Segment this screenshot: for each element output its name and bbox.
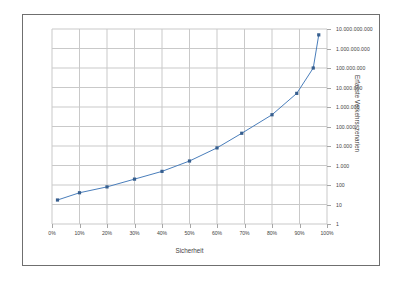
x-axis-tick	[272, 224, 273, 228]
y-axis-tick	[327, 185, 331, 186]
y-axis-tick	[327, 107, 331, 108]
y-axis-tick	[327, 68, 331, 69]
y-axis-tick-label: 10.000	[336, 143, 352, 149]
series-markers	[56, 33, 320, 201]
plot-area: 1101001.00010.000100.0001.000.00010.000.…	[52, 29, 327, 224]
x-axis-tick-label: 20%	[102, 230, 112, 236]
y-axis-tick-label: 10.000.000.000	[336, 26, 373, 32]
x-axis-tick	[245, 224, 246, 228]
data-point-marker	[270, 113, 273, 116]
y-axis-tick-label: 1.000	[336, 163, 349, 169]
x-axis-tick-label: 80%	[267, 230, 277, 236]
x-axis-tick	[190, 224, 191, 228]
x-axis-tick-label: 0%	[48, 230, 55, 236]
x-axis-title: Sicherheit	[52, 247, 327, 254]
y-axis-tick	[327, 146, 331, 147]
y-axis-tick-label: 10	[336, 202, 342, 208]
y-axis-tick-label: 100.000.000	[336, 65, 365, 71]
x-axis-tick	[107, 224, 108, 228]
y-axis-tick-label: 1	[336, 221, 339, 227]
chart-figure: 1101001.00010.000100.0001.000.00010.000.…	[22, 14, 380, 266]
y-axis-tick	[327, 166, 331, 167]
x-axis-tick-label: 10%	[74, 230, 84, 236]
y-axis-tick-label: 100	[336, 182, 345, 188]
x-axis-tick	[135, 224, 136, 228]
data-point-marker	[105, 185, 108, 188]
x-axis-tick-label: 40%	[157, 230, 167, 236]
x-axis-tick-label: 70%	[239, 230, 249, 236]
series-line	[58, 35, 319, 200]
y-axis-tick-label: 100.000	[336, 124, 355, 130]
y-axis-tick	[327, 29, 331, 30]
y-axis-tick-label: 1.000.000.000	[336, 46, 370, 52]
x-axis-tick-label: 100%	[320, 230, 333, 236]
data-point-marker	[312, 66, 315, 69]
x-axis-tick	[52, 224, 53, 228]
data-point-marker	[188, 159, 191, 162]
data-point-marker	[56, 198, 59, 201]
data-point-marker	[240, 132, 243, 135]
data-point-marker	[317, 33, 320, 36]
x-axis-tick-label: 30%	[129, 230, 139, 236]
y-axis-tick	[327, 49, 331, 50]
x-axis-tick	[327, 224, 328, 228]
data-point-marker	[215, 146, 218, 149]
x-axis-tick	[300, 224, 301, 228]
data-point-marker	[78, 191, 81, 194]
x-axis-tick-label: 60%	[212, 230, 222, 236]
data-point-marker	[133, 178, 136, 181]
data-point-marker	[295, 92, 298, 95]
x-axis-tick-label: 50%	[184, 230, 194, 236]
x-axis-tick	[80, 224, 81, 228]
x-axis-tick	[217, 224, 218, 228]
x-axis-tick	[162, 224, 163, 228]
series-svg	[52, 29, 327, 224]
y-axis-title: Erfasste Verkehrsszenarien	[354, 75, 361, 185]
y-axis-tick	[327, 205, 331, 206]
grid-layer	[52, 29, 327, 224]
data-point-marker	[160, 170, 163, 173]
y-axis-tick	[327, 88, 331, 89]
y-axis-tick	[327, 127, 331, 128]
x-axis-tick-label: 90%	[294, 230, 304, 236]
